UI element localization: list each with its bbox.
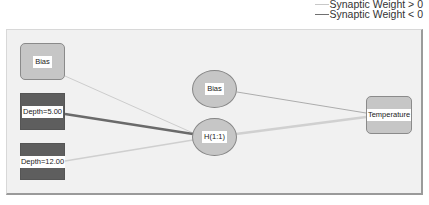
hidden-node-h11: H(1:1) [192, 118, 237, 156]
input-node-depth-12: Depth=12.00 [20, 143, 65, 180]
neural-network-diagram: Synaptic Weight > 0 Synaptic Weight < 0 … [0, 0, 429, 205]
input-node-depth-5: Depth=5.00 [20, 93, 65, 130]
edge-h11-to-temperature [236, 117, 366, 134]
edge-depth12-to-h11 [65, 140, 193, 161]
output-node-temperature: Temperature [366, 96, 412, 134]
edge-hidden-bias-to-temperature [237, 92, 366, 113]
node-label: Bias [33, 56, 52, 68]
hidden-node-bias: Bias [192, 70, 237, 108]
input-node-bias: Bias [20, 43, 65, 80]
node-label: H(1:1) [202, 131, 227, 143]
node-label: Temperature [367, 109, 411, 121]
node-label: Depth=5.00 [22, 106, 63, 118]
node-label: Depth=12.00 [20, 156, 65, 168]
node-label: Bias [205, 83, 224, 95]
